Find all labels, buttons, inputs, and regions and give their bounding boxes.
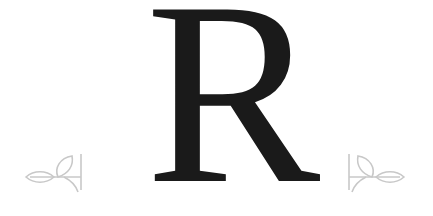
monogram-letter: R [128,0,338,216]
leaf-sprig-left-icon [20,150,90,194]
leaf-sprig-right-icon [340,150,410,194]
